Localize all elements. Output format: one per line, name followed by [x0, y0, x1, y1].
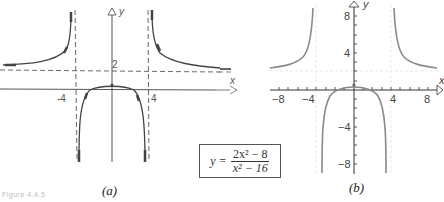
panel-a-left-asymptote-label: -4: [57, 93, 66, 104]
panel-b-x-label: x: [438, 74, 444, 86]
panel-a-asymptote-horizontal: [0, 70, 220, 72]
panel-b-xtick--8: −8: [272, 93, 285, 105]
panel-a-asymptote-right: [148, 10, 149, 160]
formula-box: y = 2x² − 8 x² − 16: [199, 144, 281, 178]
panel-b-left-branch: [270, 8, 313, 68]
panel-b-x-arrow-icon: [437, 85, 443, 95]
panel-b-xtick--4: −4: [302, 93, 315, 105]
panel-a-x-arrow-icon: [230, 86, 237, 94]
panel-a-y-arrow-icon: [108, 8, 116, 15]
panel-b-ytick--4: −4: [338, 121, 351, 133]
formula-numerator: 2x² − 8: [231, 148, 269, 162]
panel-b-right-branch: [394, 8, 437, 68]
panel-b-xtick-8: 8: [424, 93, 430, 105]
panel-a-x-label: x: [229, 75, 236, 86]
panel-b-ytick-8: 8: [344, 10, 350, 22]
panel-b-y-arrow-icon: [349, 1, 359, 7]
panel-a-left-branch: [3, 12, 71, 65]
panel-b-plot: [270, 1, 443, 175]
caption-b: (b): [349, 180, 364, 196]
panel-b-y-intercept: [352, 83, 355, 86]
formula-denominator: x² − 16: [231, 162, 270, 175]
panel-a-right-branch: [152, 12, 220, 68]
caption-a: (a): [102, 183, 117, 199]
panel-a-y-label: y: [118, 6, 125, 17]
panel-b-xtick-4: 4: [390, 93, 396, 105]
panel-b-ytick-4: 4: [344, 47, 350, 59]
panel-b-ytick--8: −8: [338, 158, 351, 170]
formula-lhs: y =: [210, 154, 226, 169]
panel-a-sketch: [0, 8, 220, 162]
panel-a-asymptote-left: [75, 10, 77, 160]
panel-a-y-intercept: [111, 84, 114, 87]
panel-a-h-asymptote-label: 2: [112, 59, 118, 70]
panel-a-right-asymptote-label: 4: [151, 93, 157, 104]
panel-b-y-label: y: [362, 0, 370, 10]
figure-label: Figure 4.4.5: [2, 191, 45, 198]
panel-a-x-axis: [0, 89, 216, 90]
formula-fraction: 2x² − 8 x² − 16: [231, 148, 270, 174]
